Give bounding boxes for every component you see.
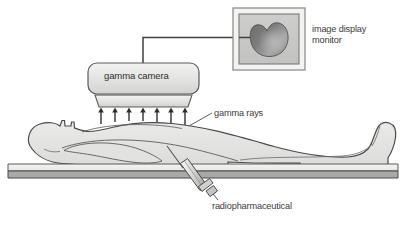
examination-table (8, 164, 398, 178)
image-display-monitor[interactable] (233, 8, 305, 70)
label-monitor-line2: monitor (312, 35, 342, 45)
organ-scan-image (250, 23, 288, 57)
gamma-ray-arrow (98, 108, 104, 125)
gamma-ray-arrow (126, 108, 132, 122)
patient-figure (28, 121, 395, 167)
label-gamma-camera: gamma camera (104, 70, 169, 81)
camera-detector-block (95, 95, 192, 107)
gamma-ray-arrow (154, 108, 160, 123)
label-image-display-monitor: image displaymonitor (312, 24, 366, 46)
gamma-ray-arrow (112, 108, 118, 123)
label-gamma-rays: gamma rays (214, 108, 263, 119)
table-front-edge (8, 171, 398, 178)
radiopharmaceutical-leader-line (213, 194, 218, 200)
gamma-ray-arrow (140, 108, 146, 122)
table-top-surface (8, 164, 398, 171)
gamma-ray-arrow (168, 108, 174, 124)
gamma-ray-arrow (182, 108, 188, 126)
label-radiopharmaceutical: radiopharmaceutical (212, 201, 292, 212)
label-monitor-line1: image display (312, 24, 366, 34)
nuclear-imaging-diagram: image displaymonitor gamma camera gamma … (0, 0, 409, 226)
patient-body-silhouette (28, 121, 395, 167)
cable-camera-to-monitor (143, 38, 239, 64)
gamma-rays-leader-line (189, 113, 212, 126)
